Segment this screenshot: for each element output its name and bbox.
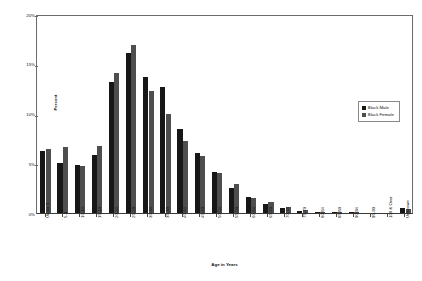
bar-female [149,91,154,213]
x-tick-label: 65-69 [269,207,273,218]
x-tick-label: 25-29 [132,207,136,218]
bar-group [246,16,257,213]
bar-male [57,163,62,213]
x-axis-labels: Under 55-910-1415-1920-2425-2930-3435-39… [36,214,413,259]
bar-group [143,16,154,213]
x-tick-label: 15-19 [98,207,102,218]
x-tick-label: 100 & Over [389,196,393,218]
legend-label-black-male: Black Male [368,106,389,110]
bar-group [212,16,223,213]
bar-female [131,45,136,213]
bar-male [195,153,200,213]
bar-male [212,172,217,213]
bar-female [97,146,102,213]
bar-female [63,147,68,213]
bar-group [297,16,308,213]
bar-group [109,16,120,213]
bar-group [229,16,240,213]
legend-swatch-black-female [362,113,366,117]
bar-group [263,16,274,213]
x-tick-label: 85-89 [338,207,342,218]
bar-male [109,82,114,213]
x-tick-label: 35-39 [166,207,170,218]
legend-item-black-male: Black Male [362,105,394,112]
x-tick-label: 20-24 [115,207,119,218]
x-tick-label: 50-54 [218,207,222,218]
x-tick-label: 5-9 [64,212,68,218]
x-tick-label: 45-49 [201,207,205,218]
bar-female [183,141,188,213]
bar-male [332,212,337,213]
bar-female [80,166,85,213]
y-tick-label: 10% [18,113,35,117]
bar-male [143,77,148,213]
bar-male [126,53,131,213]
x-tick-label: Unknown [406,200,410,218]
x-tick-label: 40-44 [183,207,187,218]
y-tick-label: 20% [18,14,35,18]
x-tick-label: Under 5 [46,203,50,218]
chart-figure: Percent 20%15%10%5%0% Black Male Black F… [0,0,422,281]
bar-group [57,16,68,213]
bar-group [315,16,326,213]
bar-female [114,73,119,213]
chart-legend: Black Male Black Female [358,101,400,122]
legend-label-black-female: Black Female [368,113,394,117]
x-tick-label: 60-64 [252,207,256,218]
bar-group [400,16,411,213]
x-tick-label: 70-74 [286,207,290,218]
x-axis-title: Age in Years [36,262,413,267]
bar-group [160,16,171,213]
bar-male [160,87,165,213]
bar-female [200,156,205,213]
bar-series-container [37,16,412,213]
x-tick-label: 80-84 [321,207,325,218]
x-tick-label: 90-94 [355,207,359,218]
x-tick-label: 75-79 [303,207,307,218]
bar-male [315,212,320,213]
bar-female [166,114,171,214]
legend-item-black-female: Black Female [362,112,394,119]
bar-male [75,165,80,213]
y-tick-label: 0% [18,213,35,217]
bar-group [75,16,86,213]
bar-group [92,16,103,213]
plot-area: Percent 20%15%10%5%0% Black Male Black F… [36,15,413,214]
bar-group [126,16,137,213]
bar-group [177,16,188,213]
x-tick-label: 30-34 [149,207,153,218]
bar-male [92,155,97,213]
bar-group [280,16,291,213]
bar-group [40,16,51,213]
bar-male [177,129,182,213]
bar-group [332,16,343,213]
y-tick-label: 5% [18,163,35,167]
legend-swatch-black-male [362,106,366,110]
bar-group [195,16,206,213]
y-tick-label: 15% [18,63,35,67]
x-tick-label: 95-99 [372,207,376,218]
x-tick-label: 10-14 [81,207,85,218]
x-tick-label: 55-59 [235,207,239,218]
